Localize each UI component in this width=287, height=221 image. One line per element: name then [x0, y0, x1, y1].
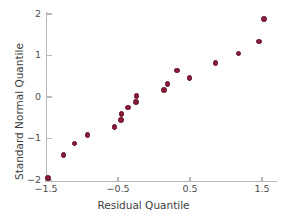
x-tick-label: 1.5 — [245, 183, 279, 194]
x-tick-label: 0.5 — [173, 183, 207, 194]
y-tick-label: 2 — [19, 8, 41, 19]
y-tick-mark — [47, 96, 52, 97]
data-point — [118, 117, 123, 122]
y-axis-label: Standard Normal Quantile — [13, 43, 25, 180]
y-tick-mark — [47, 55, 52, 56]
x-tick-label: −1.5 — [29, 183, 63, 194]
data-point — [213, 60, 218, 65]
x-tick-mark — [117, 177, 118, 182]
data-point — [45, 175, 50, 180]
data-point — [174, 68, 179, 73]
data-point — [125, 105, 130, 110]
data-point — [165, 81, 170, 86]
y-tick-mark — [47, 13, 52, 14]
data-point — [261, 16, 266, 21]
data-point — [134, 93, 139, 98]
x-tick-mark — [261, 177, 262, 182]
x-tick-label: −0.5 — [101, 183, 135, 194]
x-axis-label: Residual Quantile — [0, 199, 287, 211]
data-point — [161, 87, 166, 92]
data-point — [236, 51, 241, 56]
data-point — [85, 132, 90, 137]
data-point — [133, 99, 138, 104]
qq-plot-figure: −2−1012−1.5−0.50.51.5 Residual Quantile … — [0, 0, 287, 221]
data-point — [187, 75, 192, 80]
x-tick-mark — [189, 177, 190, 182]
data-point — [61, 152, 66, 157]
data-point — [112, 124, 117, 129]
plot-area: −2−1012−1.5−0.50.51.5 — [0, 0, 287, 221]
y-tick-mark — [47, 138, 52, 139]
data-point — [72, 141, 77, 146]
data-point — [119, 111, 124, 116]
data-point — [256, 39, 261, 44]
x-axis-line — [45, 181, 277, 182]
